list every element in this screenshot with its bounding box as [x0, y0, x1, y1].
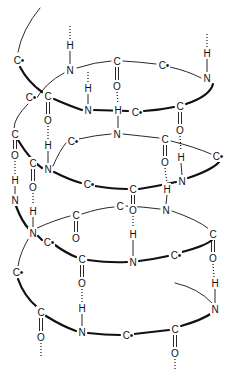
atom-label: C•: [132, 107, 143, 118]
atom-labels: C•HNCOC•HNC•COHNHC•COCNC•COC•HOCNHHOC•CN…: [10, 39, 224, 359]
atom-label: C: [113, 56, 120, 67]
atom-label: C: [11, 129, 18, 140]
atom-label: C: [116, 201, 123, 212]
atom-label: C•: [159, 60, 170, 71]
atom-label: N: [44, 164, 51, 175]
atom-label: H: [44, 140, 51, 151]
atom-label: N: [78, 327, 85, 338]
atom-label: H: [84, 83, 91, 94]
atom-label: N: [113, 129, 120, 140]
atom-label: H: [211, 278, 218, 289]
atom-label: H: [11, 175, 18, 186]
atom-label: C: [78, 254, 85, 265]
atom-label: C•: [44, 237, 55, 248]
atom-label: C: [171, 324, 178, 335]
atom-label: O: [176, 125, 184, 136]
atom-label: O: [209, 253, 217, 264]
atom-label: C•: [13, 267, 24, 278]
atom-label: C: [72, 210, 79, 221]
atom-label: H: [78, 303, 85, 314]
atom-label: O: [44, 115, 52, 126]
atom-label: C: [176, 101, 183, 112]
atom-label: C•: [123, 330, 134, 341]
atom-label: N: [162, 205, 169, 216]
atom-label: C•: [14, 55, 25, 66]
atom-label: O: [113, 81, 121, 92]
atom-label: N: [29, 228, 36, 239]
atom-label: H: [114, 105, 121, 116]
atom-label: O: [171, 348, 179, 359]
atom-label: C: [209, 229, 216, 240]
atom-label: N: [11, 195, 18, 206]
atom-label: O: [29, 182, 37, 193]
atom-label: C•: [84, 179, 95, 190]
atom-label: C: [29, 158, 36, 169]
atom-label: O: [11, 150, 19, 161]
atom-label: C: [129, 184, 136, 195]
atom-label: C•: [26, 92, 37, 103]
atom-label: C•: [213, 151, 224, 162]
atom-label: H: [29, 206, 36, 217]
atom-label: O: [37, 332, 45, 343]
atom-label: N: [66, 65, 73, 76]
atom-label: O: [161, 157, 169, 168]
atom-label: C: [37, 307, 44, 318]
atom-label: O: [129, 205, 137, 216]
atom-label: N: [129, 257, 136, 268]
atom-label: N: [178, 176, 185, 187]
atom-label: H: [177, 152, 184, 163]
atom-label: C•: [68, 136, 79, 147]
atom-label: C•: [171, 250, 182, 261]
atom-label: N: [211, 304, 218, 315]
atom-label: H: [163, 184, 170, 195]
atom-label: N: [84, 105, 91, 116]
atom-label: N: [203, 73, 210, 84]
atom-label: H: [129, 229, 136, 240]
atom-label: H: [66, 40, 73, 51]
atom-label: H: [203, 48, 210, 59]
hydrogen-bonds: [15, 26, 214, 370]
atom-label: C: [44, 91, 51, 102]
atom-label: O: [72, 233, 80, 244]
atom-label: O: [78, 278, 86, 289]
atom-label: C: [161, 134, 168, 145]
alpha-helix-diagram: C•HNCOC•HNC•COHNHC•COCNC•COC•HOCNHHOC•CN…: [0, 0, 232, 374]
